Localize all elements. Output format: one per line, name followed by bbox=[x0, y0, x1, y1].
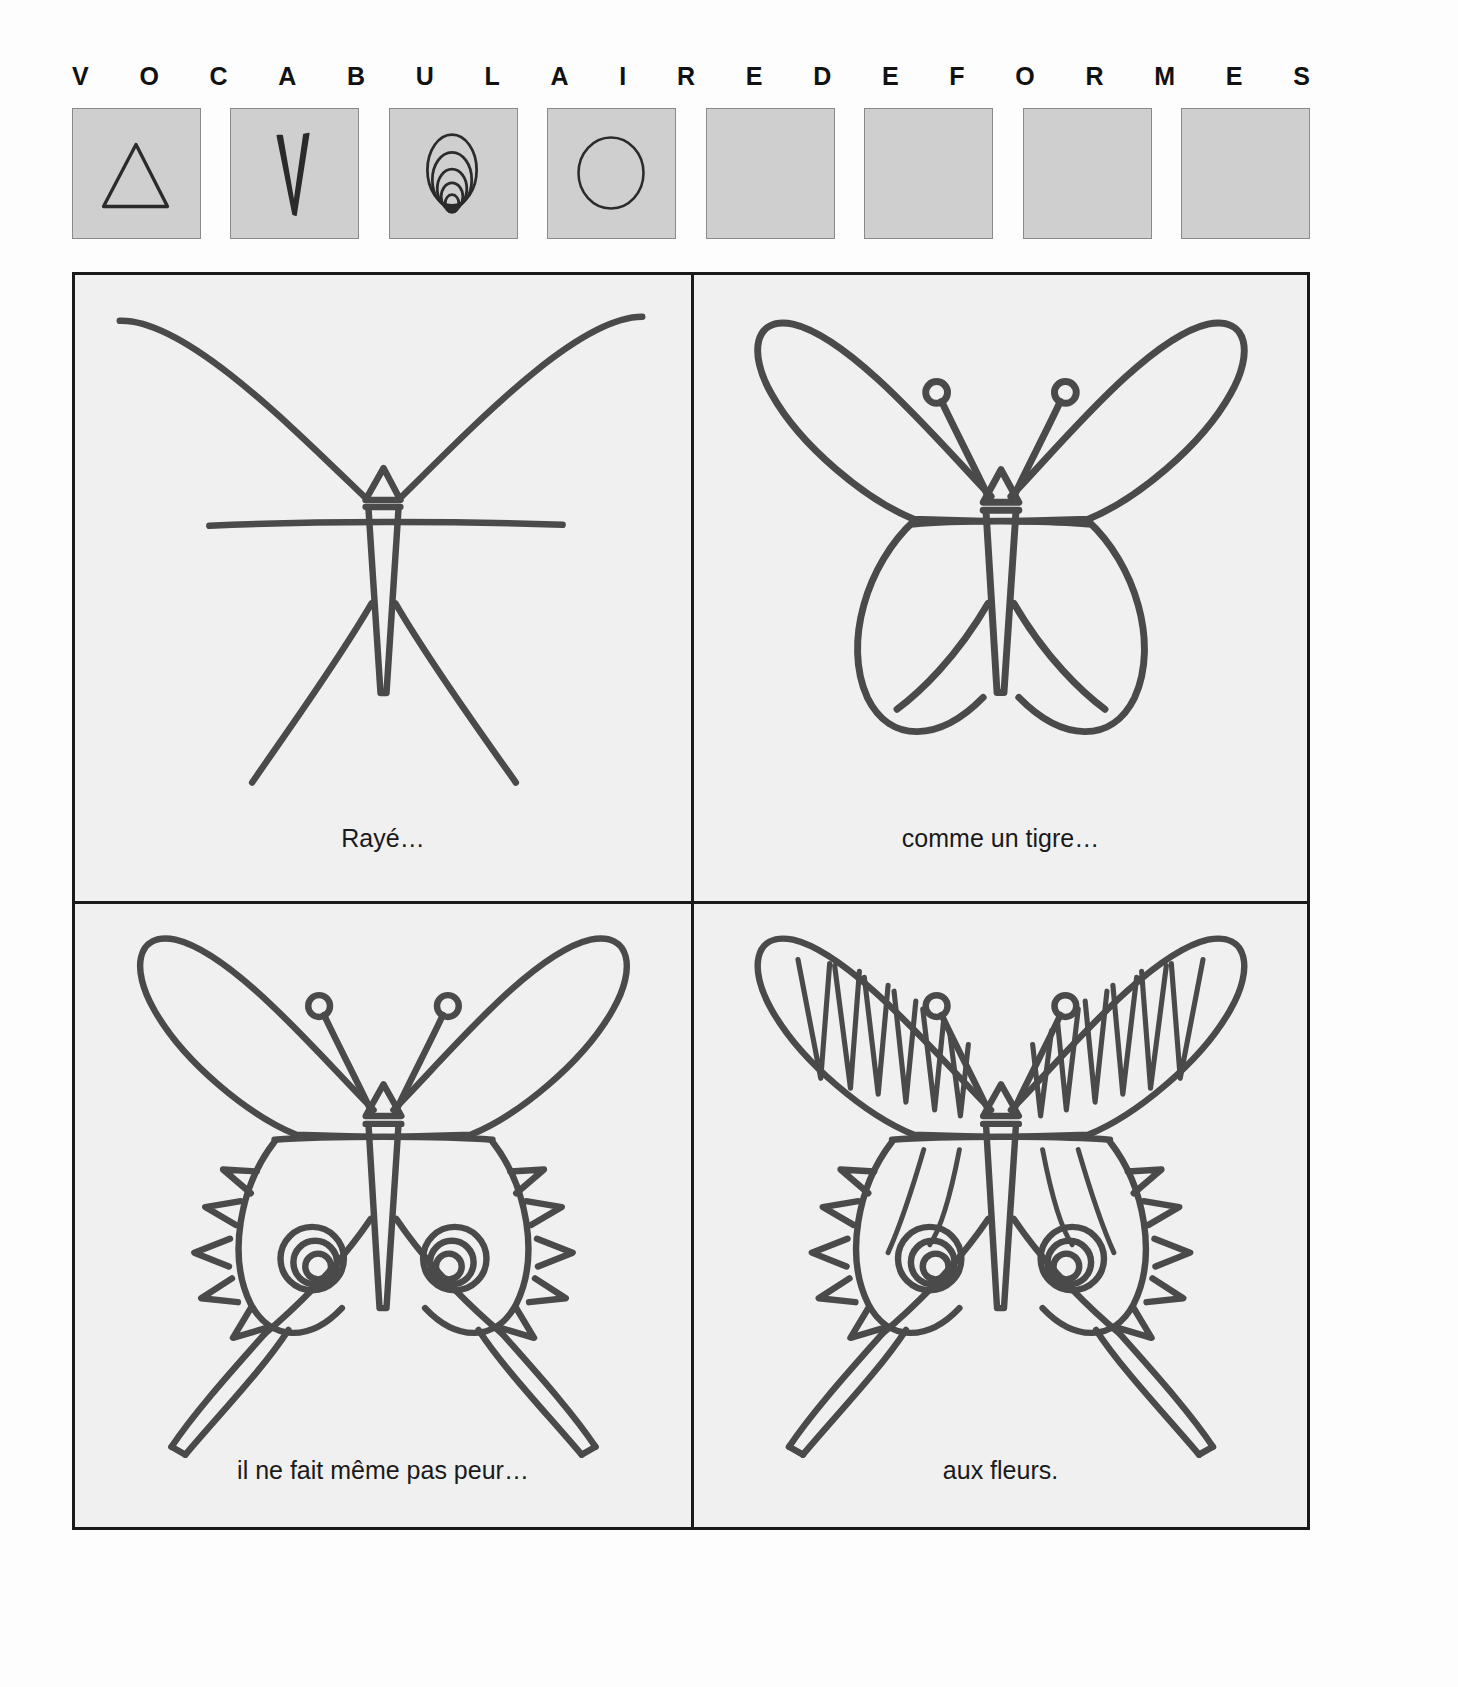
title-letter-19: S bbox=[1293, 62, 1310, 91]
title-letter-3: C bbox=[210, 62, 228, 91]
butterfly-spikes-drawing bbox=[75, 904, 691, 1527]
title-letter-10: R bbox=[677, 62, 695, 91]
panel-2-butterfly-outline: comme un tigre… bbox=[691, 275, 1307, 901]
vocab-box-1-triangle[interactable] bbox=[72, 108, 201, 239]
title-letter-18: E bbox=[1226, 62, 1243, 91]
title-letter-15: O bbox=[1015, 62, 1034, 91]
v-stripe-icon bbox=[231, 109, 358, 238]
worksheet-page: VOCABULAIREDEFORMES bbox=[0, 0, 1458, 1687]
vocab-box-8-empty[interactable] bbox=[1181, 108, 1310, 239]
title-letter-13: E bbox=[882, 62, 899, 91]
butterfly-step-grid: Rayé… bbox=[72, 272, 1310, 1530]
vocab-box-7-empty[interactable] bbox=[1023, 108, 1152, 239]
panel-4-caption: aux fleurs. bbox=[694, 1456, 1307, 1485]
lower-wing-veins bbox=[888, 1150, 1114, 1253]
shape-vocabulary-row bbox=[72, 108, 1310, 239]
triangle-icon bbox=[73, 109, 200, 238]
tiger-stripes bbox=[798, 960, 1203, 1116]
circle-icon bbox=[548, 109, 675, 238]
butterfly-striped-drawing bbox=[694, 904, 1307, 1527]
page-title-letters: VOCABULAIREDEFORMES bbox=[72, 62, 1310, 91]
title-letter-14: F bbox=[949, 62, 964, 91]
title-letter-8: A bbox=[551, 62, 569, 91]
panel-1-butterfly-skeleton: Rayé… bbox=[75, 275, 691, 901]
panel-3-butterfly-spikes: il ne fait même pas peur… bbox=[75, 901, 691, 1527]
title-letter-4: A bbox=[278, 62, 296, 91]
vocab-box-6-empty[interactable] bbox=[864, 108, 993, 239]
butterfly-skeleton-drawing bbox=[75, 275, 691, 901]
title-letter-7: L bbox=[485, 62, 500, 91]
title-letter-16: R bbox=[1085, 62, 1103, 91]
title-letter-11: E bbox=[746, 62, 763, 91]
panel-1-caption: Rayé… bbox=[75, 824, 691, 853]
title-letter-17: M bbox=[1154, 62, 1175, 91]
title-letter-12: D bbox=[813, 62, 831, 91]
panel-3-caption: il ne fait même pas peur… bbox=[75, 1456, 691, 1485]
butterfly-outline-drawing bbox=[694, 275, 1307, 901]
empty-slot-icon bbox=[707, 109, 834, 238]
title-letter-9: I bbox=[619, 62, 626, 91]
spiral-ovals-icon bbox=[390, 109, 517, 238]
empty-slot-icon bbox=[865, 109, 992, 238]
panel-4-butterfly-striped: aux fleurs. bbox=[691, 901, 1307, 1527]
page-title: VOCABULAIREDEFORMES bbox=[72, 58, 1310, 94]
vocab-box-4-circle[interactable] bbox=[547, 108, 676, 239]
vocab-box-3-concentric-ovals[interactable] bbox=[389, 108, 518, 239]
empty-slot-icon bbox=[1182, 109, 1309, 238]
title-letter-1: V bbox=[72, 62, 89, 91]
vocab-box-2-v-stripe[interactable] bbox=[230, 108, 359, 239]
title-letter-5: B bbox=[347, 62, 365, 91]
panel-2-caption: comme un tigre… bbox=[694, 824, 1307, 853]
title-letter-6: U bbox=[416, 62, 434, 91]
vocab-box-5-empty[interactable] bbox=[706, 108, 835, 239]
title-letter-2: O bbox=[139, 62, 158, 91]
empty-slot-icon bbox=[1024, 109, 1151, 238]
